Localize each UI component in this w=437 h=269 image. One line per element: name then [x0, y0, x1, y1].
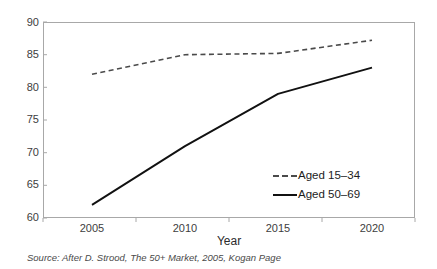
y-axis-ticks: [43, 22, 47, 218]
source-caption: Source: After D. Strood, The 50+ Market,…: [27, 252, 281, 264]
dashed-line-key-icon: [272, 170, 298, 182]
y-tick-label: 65: [5, 179, 39, 190]
chart-legend: Aged 15–34 Aged 50–69: [272, 166, 402, 204]
y-tick-label: 60: [5, 212, 39, 223]
y-tick-label: 70: [5, 147, 39, 158]
y-tick-label: 90: [5, 17, 39, 28]
legend-label: Aged 15–34: [298, 169, 360, 182]
x-axis-title: Year: [43, 234, 415, 248]
y-tick-label: 75: [5, 114, 39, 125]
y-axis-tick-labels: 90 85 80 75 70 65 60: [0, 0, 39, 269]
y-tick-label: 80: [5, 82, 39, 93]
legend-item-aged-50-69: Aged 50–69: [272, 185, 402, 204]
line-chart-figure: 90 85 80 75 70 65 60: [0, 0, 437, 269]
y-tick-label: 85: [5, 49, 39, 60]
solid-line-key-icon: [272, 189, 298, 201]
legend-label: Aged 50–69: [298, 188, 360, 201]
series-line-aged-15-34: [92, 40, 372, 74]
legend-item-aged-15-34: Aged 15–34: [272, 166, 402, 185]
